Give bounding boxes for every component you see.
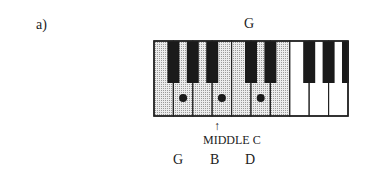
bottom-note-b: B xyxy=(210,153,219,167)
black-key xyxy=(245,41,257,83)
black-key xyxy=(303,41,315,83)
middle-c-label: MIDDLE C xyxy=(203,134,261,146)
bottom-note-d: D xyxy=(245,153,255,167)
top-note-label: G xyxy=(244,17,254,31)
middle-c-arrow: ↑ xyxy=(214,120,220,132)
black-key xyxy=(323,41,335,83)
black-key xyxy=(264,41,276,83)
note-dot-icon xyxy=(218,94,226,102)
black-key xyxy=(206,41,218,83)
figure-label: a) xyxy=(36,18,47,32)
bottom-note-g: G xyxy=(173,153,183,167)
note-dot-icon xyxy=(257,94,265,102)
black-key xyxy=(167,41,179,83)
note-dot-icon xyxy=(179,94,187,102)
piano-keyboard xyxy=(153,40,349,118)
black-key xyxy=(187,41,199,83)
